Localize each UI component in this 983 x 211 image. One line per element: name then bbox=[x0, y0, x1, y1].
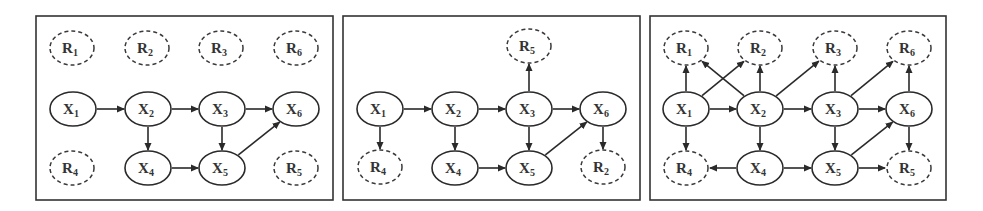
node-x4-variable: X4 bbox=[737, 151, 783, 185]
node-x3-variable: X3 bbox=[506, 92, 552, 126]
arrow-x2-to-r3 bbox=[776, 61, 819, 96]
node-x3-variable: X3 bbox=[812, 92, 858, 126]
edges bbox=[380, 64, 603, 168]
node-x3-variable: X3 bbox=[199, 92, 245, 126]
missing-data-graph-figure: R1R2R3R6X1X2X3X6R4X4X5R5R5X1X2X3X6R4X4X5… bbox=[0, 0, 983, 211]
node-r5-missingness-indicator: R5 bbox=[887, 151, 931, 185]
node-x1-variable: X1 bbox=[357, 92, 403, 126]
node-r3-missingness-indicator: R3 bbox=[199, 31, 243, 65]
arrow-x3-to-r6 bbox=[851, 61, 893, 95]
nodes: R1R2R3R6X1X2X3X6R4X4X5R5 bbox=[50, 31, 319, 185]
node-x6-variable: X6 bbox=[273, 92, 319, 126]
node-x5-variable: X5 bbox=[812, 151, 858, 185]
node-x1-variable: X1 bbox=[50, 92, 96, 126]
nodes: R5X1X2X3X6R4X4X5R2 bbox=[357, 29, 626, 185]
edges bbox=[686, 61, 909, 168]
node-x6-variable: X6 bbox=[580, 92, 626, 126]
node-r1-missingness-indicator: R1 bbox=[50, 31, 94, 65]
node-r2-missingness-indicator: R2 bbox=[125, 31, 169, 65]
nodes: R1R2R3R6X1X2X3X6R4X4X5R5 bbox=[663, 31, 932, 185]
node-x4-variable: X4 bbox=[432, 151, 478, 185]
node-x6-variable: X6 bbox=[886, 92, 932, 126]
node-r2-missingness-indicator: R2 bbox=[738, 31, 782, 65]
panel-3: R1R2R3R6X1X2X3X6R4X4X5R5 bbox=[650, 16, 946, 200]
node-r2-missingness-indicator: R2 bbox=[581, 150, 625, 184]
node-r6-missingness-indicator: R6 bbox=[887, 31, 931, 65]
panels-layer: R1R2R3R6X1X2X3X6R4X4X5R5R5X1X2X3X6R4X4X5… bbox=[36, 16, 946, 200]
node-x2-variable: X2 bbox=[432, 92, 478, 126]
node-r1-missingness-indicator: R1 bbox=[664, 31, 708, 65]
node-x4-variable: X4 bbox=[125, 151, 171, 185]
node-r4-missingness-indicator: R4 bbox=[358, 150, 402, 184]
node-x5-variable: X5 bbox=[506, 151, 552, 185]
node-x1-variable: X1 bbox=[663, 92, 709, 126]
arrow-x5-to-x6 bbox=[238, 122, 279, 155]
edges bbox=[97, 109, 280, 168]
panel-1: R1R2R3R6X1X2X3X6R4X4X5R5 bbox=[36, 16, 333, 200]
panel-2: R5X1X2X3X6R4X4X5R2 bbox=[343, 16, 640, 200]
node-x5-variable: X5 bbox=[199, 151, 245, 185]
node-r4-missingness-indicator: R4 bbox=[50, 151, 94, 185]
node-x2-variable: X2 bbox=[125, 92, 171, 126]
node-r5-missingness-indicator: R5 bbox=[507, 29, 551, 63]
node-x2-variable: X2 bbox=[737, 92, 783, 126]
node-r4-missingness-indicator: R4 bbox=[664, 151, 708, 185]
node-r3-missingness-indicator: R3 bbox=[813, 31, 857, 65]
node-r6-missingness-indicator: R6 bbox=[274, 31, 318, 65]
node-r5-missingness-indicator: R5 bbox=[274, 151, 318, 185]
arrow-x5-to-x6 bbox=[545, 122, 586, 155]
arrow-x5-to-x6 bbox=[851, 122, 892, 155]
